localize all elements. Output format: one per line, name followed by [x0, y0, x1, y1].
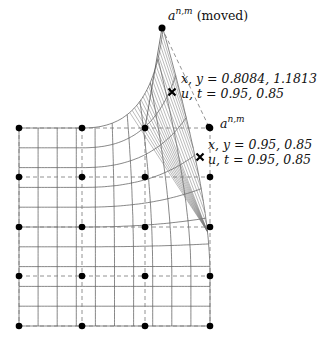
- hatch-helper: [113, 18, 165, 38]
- hatch-helper: [113, 12, 163, 29]
- control-point: [16, 323, 23, 330]
- original-x-marker-icon: [197, 154, 204, 161]
- control-point: [142, 174, 149, 181]
- control-point: [79, 174, 86, 181]
- control-point: [142, 125, 149, 132]
- hatch-line: [143, 97, 207, 232]
- control-point: [142, 224, 149, 231]
- control-point: [79, 125, 86, 132]
- moved-control-point: [159, 25, 166, 32]
- moved-marker-ut-label: u, t = 0.95, 0.85: [181, 87, 284, 100]
- control-point: [142, 323, 149, 330]
- control-point: [79, 323, 86, 330]
- hatch-line: [145, 93, 207, 231]
- control-point: [207, 323, 214, 330]
- control-point: [16, 224, 23, 231]
- grid-t-line: [19, 244, 209, 247]
- grid-t-line: [19, 189, 201, 208]
- original-marker-ut-label: u, t = 0.95, 0.85: [208, 153, 311, 166]
- grid-u-line: [140, 101, 153, 326]
- grid-u-line: [127, 115, 133, 326]
- grid-t-line: [19, 118, 186, 168]
- grid-t-line: [19, 218, 206, 227]
- control-point: [16, 273, 23, 280]
- original-marker-xy-label: x, y = 0.95, 0.85: [208, 138, 312, 151]
- hatch-line: [147, 90, 208, 232]
- hatch-helper: [114, 37, 174, 72]
- original-control-point: [206, 124, 213, 131]
- moved-marker-xy-label: x, y = 0.8084, 1.1813: [181, 72, 317, 85]
- control-point: [207, 273, 214, 280]
- control-point: [79, 273, 86, 280]
- control-point: [142, 273, 149, 280]
- control-point: [16, 174, 23, 181]
- control-point: [207, 224, 214, 231]
- grid-u-line: [112, 123, 114, 326]
- control-point: [207, 174, 214, 181]
- deformation-diagram: an,m (moved) an,m x, y = 0.8084, 1.1813 …: [0, 0, 322, 340]
- moved-point-label: an,m (moved): [168, 9, 248, 22]
- control-point: [79, 224, 86, 231]
- original-point-label: an,m: [220, 117, 245, 130]
- control-point: [16, 125, 23, 132]
- warped-grid-canvas: [0, 0, 322, 340]
